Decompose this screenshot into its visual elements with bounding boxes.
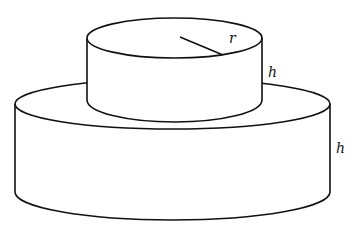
top-cylinder — [87, 18, 262, 122]
bottom-height-label: h — [336, 140, 345, 156]
top-height-label: h — [268, 64, 277, 80]
stacked-cylinders-diagram: r h h — [0, 0, 353, 226]
